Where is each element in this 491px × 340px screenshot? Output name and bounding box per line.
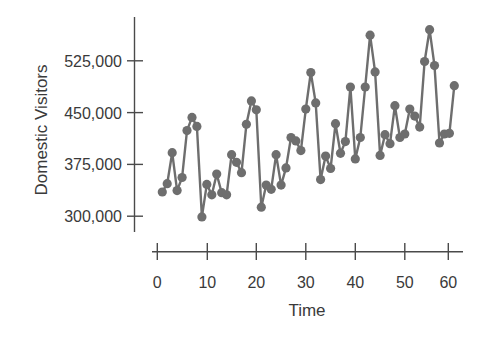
data-point: [341, 137, 350, 146]
x-tick-label: 20: [247, 274, 265, 291]
y-tick-label: 525,000: [64, 53, 122, 70]
data-point: [242, 120, 251, 129]
data-point: [356, 133, 365, 142]
x-axis-ticks: 0102030405060: [153, 243, 457, 291]
data-point: [366, 31, 375, 40]
x-tick-label: 10: [198, 274, 216, 291]
data-point: [376, 151, 385, 160]
series-points: [158, 25, 459, 221]
data-point: [182, 126, 191, 135]
data-point: [390, 101, 399, 110]
data-point: [346, 82, 355, 91]
data-point: [450, 81, 459, 90]
data-point: [158, 187, 167, 196]
y-tick-label: 300,000: [64, 208, 122, 225]
x-axis-title: Time: [288, 301, 325, 320]
x-tick-label: 50: [396, 274, 414, 291]
data-point: [163, 179, 172, 188]
data-point: [380, 130, 389, 139]
data-point: [430, 61, 439, 70]
x-tick-label: 0: [153, 274, 162, 291]
data-point: [272, 150, 281, 159]
data-point: [445, 129, 454, 138]
data-point: [400, 129, 409, 138]
data-point: [420, 57, 429, 66]
y-tick-label: 450,000: [64, 105, 122, 122]
y-axis-ticks: 300,000375,000450,000525,000: [64, 53, 143, 225]
data-point: [385, 139, 394, 148]
data-point: [277, 181, 286, 190]
data-point: [207, 190, 216, 199]
line-chart: 300,000375,000450,000525,000 Domestic Vi…: [0, 0, 491, 340]
data-point: [306, 68, 315, 77]
data-point: [301, 105, 310, 114]
y-axis-title: Domestic Visitors: [32, 65, 51, 196]
data-point: [178, 173, 187, 182]
data-point: [425, 25, 434, 34]
data-point: [291, 136, 300, 145]
data-point: [326, 164, 335, 173]
data-point: [361, 82, 370, 91]
x-tick-label: 30: [297, 274, 315, 291]
data-point: [351, 154, 360, 163]
data-point: [415, 123, 424, 132]
data-point: [168, 148, 177, 157]
data-point: [410, 112, 419, 121]
data-point: [336, 149, 345, 158]
data-point: [267, 185, 276, 194]
data-point: [227, 150, 236, 159]
data-point: [257, 203, 266, 212]
data-point: [281, 163, 290, 172]
x-tick-label: 40: [346, 274, 364, 291]
data-point: [435, 138, 444, 147]
data-point: [316, 175, 325, 184]
data-point: [197, 212, 206, 221]
data-point: [247, 96, 256, 105]
data-point: [202, 180, 211, 189]
data-point: [173, 186, 182, 195]
data-point: [296, 146, 305, 155]
data-point: [212, 170, 221, 179]
data-point: [311, 98, 320, 107]
data-point: [232, 158, 241, 167]
y-tick-label: 375,000: [64, 156, 122, 173]
data-point: [371, 67, 380, 76]
data-point: [222, 190, 231, 199]
x-tick-label: 60: [439, 274, 457, 291]
data-point: [331, 119, 340, 128]
data-point: [237, 168, 246, 177]
data-point: [321, 152, 330, 161]
data-point: [252, 105, 261, 114]
data-point: [192, 122, 201, 131]
data-point: [187, 113, 196, 122]
